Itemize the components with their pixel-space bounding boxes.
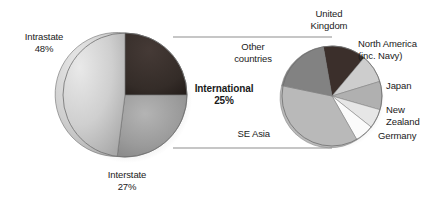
- label-intrastate: Intrastate 48%: [8, 31, 80, 54]
- label-other-countries-line2: countries: [222, 53, 284, 65]
- label-north-america-line1: North America: [358, 38, 436, 50]
- pie-chart-figure: Intrastate 48% Interstate 27% Internatio…: [0, 0, 436, 199]
- label-international-name: International: [181, 83, 267, 95]
- label-new-zealand-line2: Zealand: [386, 116, 434, 128]
- main-slice-international: [125, 33, 187, 95]
- label-new-zealand-line1: New: [386, 104, 434, 116]
- label-interstate-name: Interstate: [82, 169, 172, 181]
- detail-pie: [280, 46, 382, 148]
- label-new-zealand: New Zealand: [386, 104, 434, 127]
- label-intrastate-value: 48%: [8, 43, 80, 55]
- label-other-countries: Other countries: [222, 41, 284, 64]
- label-international: International 25%: [181, 83, 267, 106]
- label-japan: Japan: [386, 80, 434, 92]
- label-united-kingdom-line1: United: [294, 8, 364, 20]
- label-international-value: 25%: [181, 95, 267, 107]
- label-united-kingdom-line2: Kingdom: [294, 20, 364, 32]
- label-se-asia: SE Asia: [212, 128, 270, 140]
- label-north-america-line2: (inc. Navy): [358, 50, 436, 62]
- label-other-countries-line1: Other: [222, 41, 284, 53]
- label-north-america: North America (inc. Navy): [358, 38, 436, 61]
- label-interstate-value: 27%: [82, 181, 172, 193]
- label-united-kingdom: United Kingdom: [294, 8, 364, 31]
- label-interstate: Interstate 27%: [82, 169, 172, 192]
- label-germany: Germany: [378, 130, 436, 142]
- label-intrastate-name: Intrastate: [8, 31, 80, 43]
